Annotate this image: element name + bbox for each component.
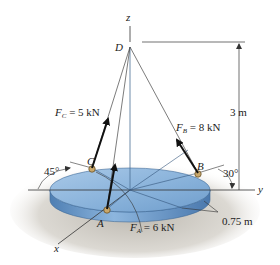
cable-DB xyxy=(130,47,198,173)
z-axis-label: z xyxy=(126,12,130,23)
force-arrow-FC xyxy=(92,119,108,168)
force-FA-value: = 6 kN xyxy=(141,221,174,233)
force-label-FB: FB = 8 kN xyxy=(176,122,220,135)
point-B-label: B xyxy=(197,161,204,172)
force-FA-symbol: F xyxy=(130,221,137,233)
statics-diagram: z D C B A y x FC = 5 kN FB = 8 kN FA = 6… xyxy=(0,0,280,265)
force-FC-value: = 5 kN xyxy=(66,106,99,118)
force-FB-value: = 8 kN xyxy=(187,121,220,133)
y-axis-label: y xyxy=(258,184,263,195)
force-label-FA: FA = 6 kN xyxy=(130,222,174,235)
radius-dimension-label: 0.75 m xyxy=(222,216,253,227)
angle-30-label: 30° xyxy=(223,168,238,179)
force-FC-symbol: F xyxy=(55,106,62,118)
force-label-FC: FC = 5 kN xyxy=(55,107,100,120)
height-dimension-label: 3 m xyxy=(230,107,247,118)
point-D-label: D xyxy=(115,42,123,53)
angle-45-label: 45° xyxy=(44,166,59,177)
point-A-label: A xyxy=(97,218,104,229)
force-FB-symbol: F xyxy=(176,121,183,133)
point-C-label: C xyxy=(87,156,94,167)
x-axis-label: x xyxy=(54,243,59,254)
